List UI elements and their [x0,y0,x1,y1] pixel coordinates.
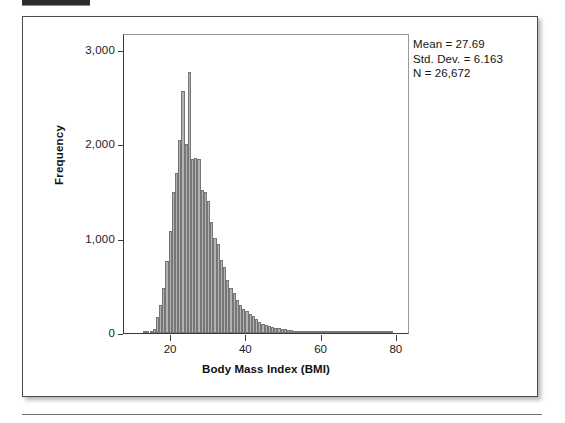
plot-frame [123,34,409,334]
x-tick-mark [396,335,397,341]
histogram-chart: Frequency 01,0002,0003,000 20406080 Body… [23,17,537,396]
y-tick-label: 0 [37,327,115,339]
x-tick-label: 40 [225,343,265,355]
stat-n: N = 26,672 [413,66,503,81]
y-tick-mark [118,334,123,335]
x-tick-label: 80 [376,343,416,355]
statistics-annotation: Mean = 27.69 Std. Dev. = 6.163 N = 26,67… [413,37,503,81]
x-tick-mark [170,335,171,341]
x-tick-label: 20 [150,343,190,355]
x-tick-mark [245,335,246,341]
stat-std-dev: Std. Dev. = 6.163 [413,52,503,67]
x-tick-mark [321,335,322,341]
histogram-bars [124,35,408,333]
page-bottom-rule [22,414,542,415]
stat-mean: Mean = 27.69 [413,37,503,52]
page-top-crop-bar [22,0,90,6]
y-tick-label: 3,000 [37,44,115,56]
histogram-bar [389,331,392,333]
y-axis-title: Frequency [53,95,65,215]
y-tick-label: 2,000 [37,138,115,150]
figure-panel: Frequency 01,0002,0003,000 20406080 Body… [22,16,538,397]
y-tick-label: 1,000 [37,233,115,245]
x-axis-title: Body Mass Index (BMI) [123,363,409,375]
x-tick-label: 60 [301,343,341,355]
